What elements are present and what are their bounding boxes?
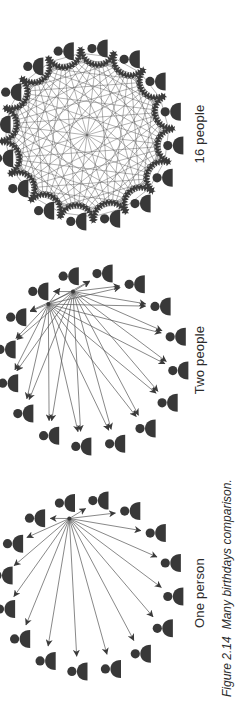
person-icon — [23, 57, 43, 75]
panel-label-two-people: Two people — [192, 326, 207, 395]
person-icon — [168, 362, 188, 380]
panel-sixteen-people — [0, 40, 183, 231]
person-icon — [39, 427, 59, 445]
fan-origin-dot — [67, 517, 71, 521]
person-icon — [105, 435, 125, 453]
people-circle — [0, 40, 183, 231]
person-icon — [55, 494, 75, 512]
person-icon — [59, 267, 79, 285]
person-icon — [88, 492, 108, 510]
person-icon — [1, 83, 21, 101]
person-icon — [92, 265, 112, 283]
person-icon — [25, 509, 45, 527]
person-icon — [66, 212, 86, 230]
person-icon — [54, 42, 74, 60]
fan-origin-dot — [71, 290, 75, 294]
person-icon — [130, 195, 150, 213]
person-icon — [87, 40, 107, 58]
person-icon — [166, 328, 186, 346]
person-icon — [163, 588, 183, 606]
person-icon — [125, 275, 145, 293]
person-icon — [135, 420, 155, 438]
person-icon — [0, 340, 16, 358]
person-icon — [0, 149, 13, 167]
people-circle — [0, 492, 183, 681]
connection-arrows — [15, 281, 167, 432]
person-icon — [120, 502, 140, 520]
person-icon — [145, 72, 165, 90]
person-icon — [8, 180, 28, 198]
person-icon — [131, 645, 151, 663]
person-icon — [67, 662, 87, 680]
person-icon — [34, 202, 54, 220]
person-icon — [0, 115, 11, 133]
figure-caption-text: Many birthdays comparison. — [220, 479, 234, 629]
fan-origin-dot — [46, 302, 50, 306]
person-icon — [13, 405, 33, 423]
person-icon — [120, 50, 140, 68]
person-icon — [0, 567, 13, 585]
person-icon — [146, 524, 166, 542]
figure-caption: Figure 2.14Many birthdays comparison. — [220, 479, 234, 697]
person-icon — [158, 394, 178, 412]
person-icon — [150, 297, 170, 315]
panel-label-one-person: One person — [192, 558, 207, 628]
person-icon — [153, 619, 173, 637]
person-icon — [100, 210, 120, 228]
person-icon — [163, 137, 183, 155]
person-icon — [3, 535, 23, 553]
person-icon — [6, 308, 26, 326]
panel-one-person — [0, 492, 183, 681]
person-icon — [36, 652, 56, 670]
person-icon — [71, 437, 91, 455]
person-icon — [0, 374, 18, 392]
figure-caption-number: Figure 2.14 — [220, 636, 234, 697]
figure-rotated-stage: One person Two people 16 people Figure 2… — [0, 0, 240, 721]
person-icon — [28, 282, 48, 300]
person-icon — [161, 554, 181, 572]
panel-two-people — [0, 265, 188, 456]
connection-arrows — [14, 509, 162, 657]
person-icon — [10, 630, 30, 648]
person-icon — [0, 600, 15, 618]
person-icon — [161, 103, 181, 121]
panel-label-16-people: 16 people — [192, 105, 207, 164]
person-icon — [153, 169, 173, 187]
person-icon — [101, 660, 121, 678]
